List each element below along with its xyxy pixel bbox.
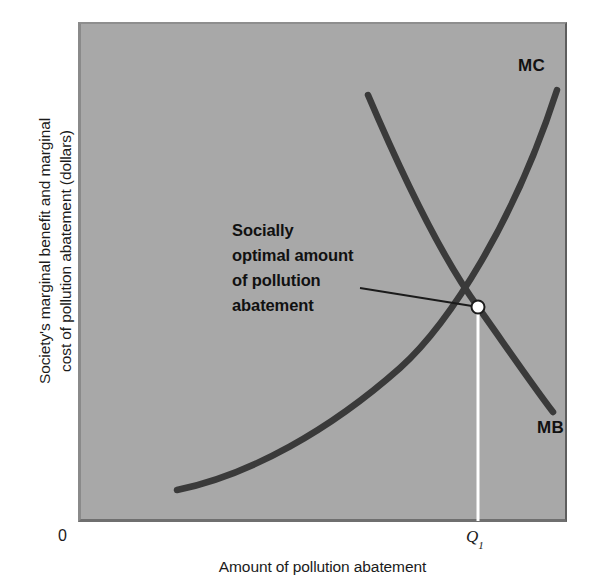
annotation-line-2: optimal amount <box>232 243 353 268</box>
q1-tick-label: Q1 <box>466 527 484 548</box>
y-axis-label-line-2: cost of pollution abatement (dollars) <box>55 16 76 486</box>
annotation-line-4: abatement <box>232 293 353 318</box>
origin-tick-label: 0 <box>58 527 67 545</box>
annotation-line-1: Socially <box>232 218 353 243</box>
y-axis-label: Society's marginal benefit and marginal … <box>34 16 76 486</box>
y-axis-label-line-1: Society's marginal benefit and marginal <box>34 16 55 486</box>
annotation-line-3: of pollution <box>232 268 353 293</box>
chart-page: Socially optimal amount of pollution aba… <box>0 0 604 587</box>
q1-base: Q <box>466 527 478 546</box>
socially-optimal-annotation: Socially optimal amount of pollution aba… <box>232 218 353 318</box>
q1-subscript: 1 <box>478 539 484 551</box>
curve-label-mb: MB <box>537 418 564 438</box>
x-axis-label: Amount of pollution abatement <box>78 558 567 576</box>
curve-label-mc: MC <box>518 56 545 76</box>
